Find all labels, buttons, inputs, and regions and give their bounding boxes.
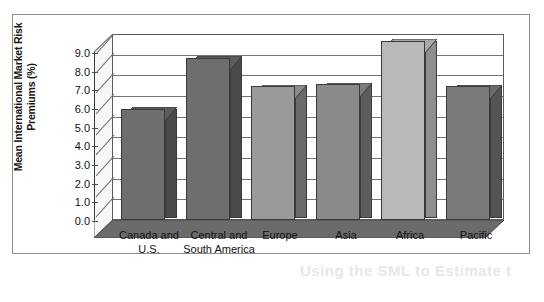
x-label-pacific: Pacific: [436, 228, 516, 242]
y-tick-label-8: 8.0: [56, 66, 90, 78]
y-tick-label-0: 0.0: [56, 215, 90, 227]
bar-front-0: [121, 109, 165, 220]
bar-asia: [316, 0, 372, 238]
y-tick-dash-0: [92, 221, 98, 222]
y-tick-label-1: 1.0: [56, 196, 90, 208]
y-tick-diagonal-4: [96, 135, 116, 157]
chart-screenshot: Using the SML to Estimate t Mean Interna…: [0, 0, 544, 302]
bar-front-5: [446, 86, 490, 220]
y-axis-title: Mean International Market Risk Premiums …: [12, 0, 38, 197]
y-tick-diagonal-2: [96, 177, 116, 199]
bar-canada-and-us: [121, 0, 177, 238]
y-tick-diagonal-8: [96, 53, 116, 75]
bar-europe: [251, 0, 307, 238]
y-tick-label-5: 5.0: [56, 122, 90, 134]
bar-africa: [381, 0, 437, 238]
plot-area: Mean International Market Risk Premiums …: [0, 0, 544, 302]
bar-side-0: [165, 109, 177, 218]
bar-side-1: [230, 57, 242, 218]
y-tick-label-2: 2.0: [56, 178, 90, 190]
y-axis-line: [94, 52, 95, 220]
bar-front-3: [316, 84, 360, 220]
bar-front-4: [381, 41, 425, 220]
y-tick-label-9: 9.0: [56, 47, 90, 59]
bar-side-3: [360, 84, 372, 218]
bar-side-5: [490, 86, 502, 218]
bar-front-2: [251, 86, 295, 220]
y-tick-diagonal-5: [96, 115, 116, 137]
y-tick-label-4: 4.0: [56, 140, 90, 152]
bar-central-and-south-america: [186, 0, 242, 238]
bar-side-2: [295, 86, 307, 218]
bar-pacific: [446, 0, 502, 238]
y-tick-diagonal-6: [96, 94, 116, 116]
bar-front-1: [186, 58, 230, 221]
y-tick-label-7: 7.0: [56, 84, 90, 96]
y-tick-diagonal-7: [96, 73, 116, 95]
y-tick-diagonal-3: [96, 156, 116, 178]
y-tick-label-3: 3.0: [56, 159, 90, 171]
bar-side-4: [425, 41, 437, 219]
y-tick-label-6: 6.0: [56, 103, 90, 115]
y-tick-diagonal-1: [96, 197, 116, 219]
